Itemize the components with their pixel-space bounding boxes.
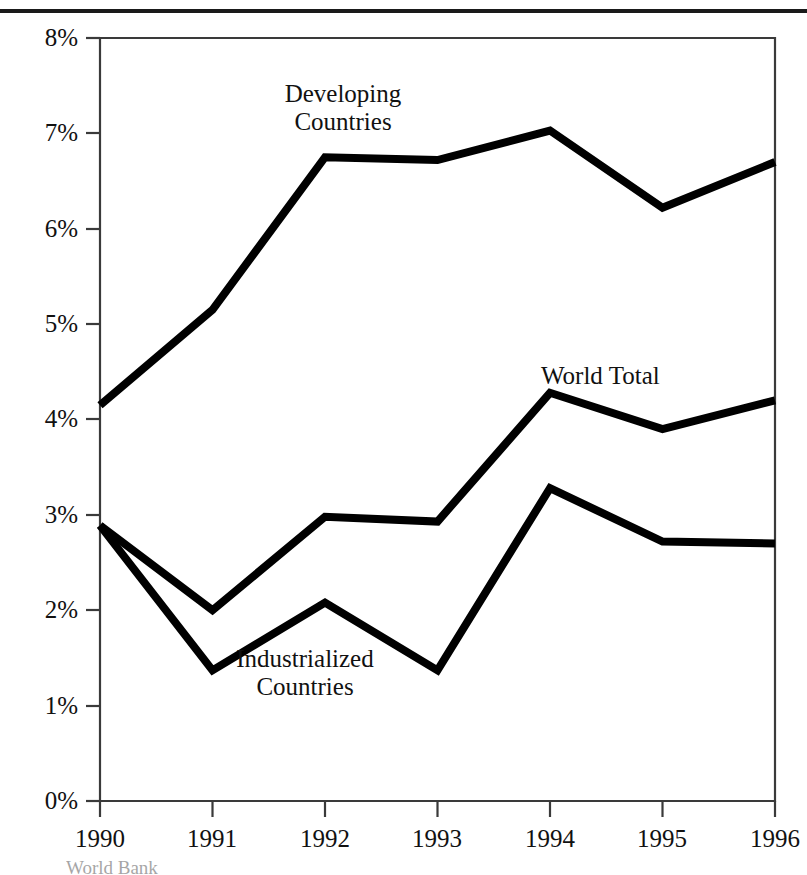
data-series-layer	[100, 131, 775, 671]
y-tick-label-6: 6%	[8, 216, 78, 241]
series-label-world-total: World Total	[541, 362, 721, 390]
series-label-industrialized-line2: Countries	[190, 673, 420, 701]
y-tick-label-1: 1%	[8, 693, 78, 718]
series-label-industrialized-line1: Industrialized	[190, 645, 420, 673]
x-axis-ticks	[100, 801, 775, 817]
x-tick-label-1994: 1994	[495, 826, 605, 851]
y-axis-ticks	[86, 38, 100, 801]
y-tick-label-4: 4%	[8, 406, 78, 431]
y-tick-label-2: 2%	[8, 597, 78, 622]
x-tick-label-1991: 1991	[157, 826, 267, 851]
x-tick-label-1990: 1990	[45, 826, 155, 851]
x-tick-label-1992: 1992	[270, 826, 380, 851]
series-label-developing-line2: Countries	[243, 108, 443, 136]
x-tick-label-1993: 1993	[382, 826, 492, 851]
series-label-developing-line1: Developing	[243, 80, 443, 108]
y-tick-label-8: 8%	[8, 25, 78, 50]
y-tick-label-5: 5%	[8, 311, 78, 336]
series-line-world-total	[100, 393, 775, 610]
chart-figure: 8% 7% 6% 5% 4% 3% 2% 1% 0% 1990 1991 199…	[0, 0, 807, 875]
source-note: World Bank	[66, 857, 158, 875]
series-label-developing-countries: Developing Countries	[243, 80, 443, 136]
y-tick-label-7: 7%	[8, 120, 78, 145]
x-tick-label-1996: 1996	[720, 826, 807, 851]
y-tick-label-0: 0%	[8, 788, 78, 813]
x-tick-label-1995: 1995	[607, 826, 717, 851]
y-tick-label-3: 3%	[8, 502, 78, 527]
series-label-industrialized-countries: Industrialized Countries	[190, 645, 420, 701]
